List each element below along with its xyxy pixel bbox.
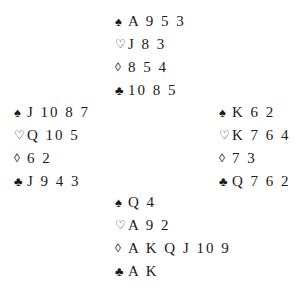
south-clubs-cards: A K xyxy=(128,260,159,283)
west-spades-cards: J 10 8 7 xyxy=(27,101,90,124)
club-icon: ♣ xyxy=(14,170,26,193)
heart-icon: ♡ xyxy=(115,214,127,237)
west-clubs: ♣ J 9 4 3 xyxy=(14,170,90,193)
heart-icon: ♡ xyxy=(115,33,127,56)
heart-icon: ♡ xyxy=(219,124,231,147)
south-diamonds: ◊ A K Q J 10 9 xyxy=(115,237,231,260)
west-hearts-cards: Q 10 5 xyxy=(27,124,80,147)
north-hand: ♠ A 9 5 3 ♡ J 8 3 ◊ 8 5 4 ♣ 10 8 5 xyxy=(115,10,186,102)
north-spades: ♠ A 9 5 3 xyxy=(115,10,186,33)
south-spades: ♠ Q 4 xyxy=(115,191,231,214)
south-hearts-cards: A 9 2 xyxy=(128,214,171,237)
north-diamonds: ◊ 8 5 4 xyxy=(115,56,186,79)
spade-icon: ♠ xyxy=(14,101,26,124)
north-hearts: ♡ J 8 3 xyxy=(115,33,186,56)
north-spades-cards: A 9 5 3 xyxy=(128,10,186,33)
west-hand: ♠ J 10 8 7 ♡ Q 10 5 ◊ 6 2 ♣ J 9 4 3 xyxy=(14,101,90,193)
west-clubs-cards: J 9 4 3 xyxy=(27,170,81,193)
east-clubs-cards: Q 7 6 2 xyxy=(232,170,291,193)
north-hearts-cards: J 8 3 xyxy=(128,33,166,56)
east-diamonds: ◊ 7 3 xyxy=(219,147,291,170)
west-hearts: ♡ Q 10 5 xyxy=(14,124,90,147)
diamond-icon: ◊ xyxy=(115,56,127,79)
diamond-icon: ◊ xyxy=(115,237,127,260)
club-icon: ♣ xyxy=(115,79,127,102)
west-diamonds: ◊ 6 2 xyxy=(14,147,90,170)
diamond-icon: ◊ xyxy=(14,147,26,170)
spade-icon: ♠ xyxy=(219,101,231,124)
east-spades: ♠ K 6 2 xyxy=(219,101,291,124)
club-icon: ♣ xyxy=(115,260,127,283)
east-hearts-cards: K 7 6 4 xyxy=(232,124,291,147)
east-hand: ♠ K 6 2 ♡ K 7 6 4 ◊ 7 3 ♣ Q 7 6 2 xyxy=(219,101,291,193)
west-diamonds-cards: 6 2 xyxy=(27,147,52,170)
south-hearts: ♡ A 9 2 xyxy=(115,214,231,237)
north-clubs: ♣ 10 8 5 xyxy=(115,79,186,102)
east-diamonds-cards: 7 3 xyxy=(232,147,257,170)
spade-icon: ♠ xyxy=(115,191,127,214)
east-clubs: ♣ Q 7 6 2 xyxy=(219,170,291,193)
diamond-icon: ◊ xyxy=(219,147,231,170)
east-spades-cards: K 6 2 xyxy=(232,101,275,124)
spade-icon: ♠ xyxy=(115,10,127,33)
west-spades: ♠ J 10 8 7 xyxy=(14,101,90,124)
club-icon: ♣ xyxy=(219,170,231,193)
south-spades-cards: Q 4 xyxy=(128,191,156,214)
heart-icon: ♡ xyxy=(14,124,26,147)
south-hand: ♠ Q 4 ♡ A 9 2 ◊ A K Q J 10 9 ♣ A K xyxy=(115,191,231,283)
east-hearts: ♡ K 7 6 4 xyxy=(219,124,291,147)
north-clubs-cards: 10 8 5 xyxy=(128,79,178,102)
south-diamonds-cards: A K Q J 10 9 xyxy=(128,237,231,260)
south-clubs: ♣ A K xyxy=(115,260,231,283)
north-diamonds-cards: 8 5 4 xyxy=(128,56,168,79)
